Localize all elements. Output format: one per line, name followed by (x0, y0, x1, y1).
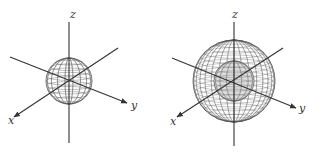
small-sphere-figure (10, 22, 127, 143)
x-axis-label-right: x (170, 115, 177, 128)
z-axis-label-right: z (231, 8, 238, 21)
y-axis-label-right: y (298, 102, 306, 115)
diagram-canvas: z y x z y x (0, 0, 315, 157)
x-axis-label-left: x (8, 114, 15, 127)
z-axis-label-left: z (69, 8, 76, 21)
y-axis-label-left: y (130, 99, 138, 112)
large-sphere-figure (172, 22, 296, 146)
